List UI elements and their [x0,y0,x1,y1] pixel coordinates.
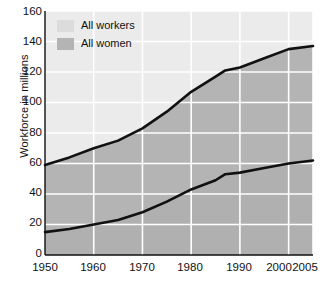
legend-swatch-all-women [57,38,74,50]
workforce-area-chart: Workforce in millions 160 140 120 100 80… [0,0,325,283]
plot-area [0,0,325,283]
x-tick-1950: 1950 [25,262,65,274]
x-tick-1960: 1960 [73,262,113,274]
legend-item-all-workers: All workers [57,18,135,33]
chart-legend: All workers All women [57,18,135,54]
legend-label-all-workers: All workers [81,20,135,31]
x-tick-1980: 1980 [170,262,210,274]
x-tick-1990: 1990 [219,262,259,274]
legend-swatch-all-workers [57,20,74,32]
legend-label-all-women: All women [81,38,132,49]
x-tick-2005: 2005 [285,262,325,274]
legend-item-all-women: All women [57,36,135,51]
x-tick-1970: 1970 [122,262,162,274]
